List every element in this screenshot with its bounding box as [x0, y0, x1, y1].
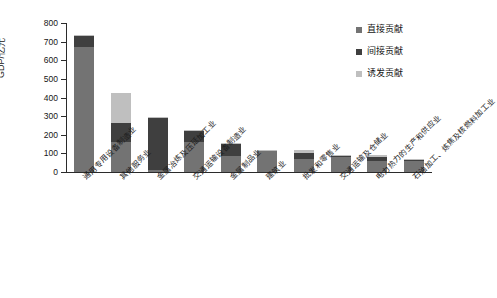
legend-swatch-icon	[356, 27, 362, 33]
legend-item[interactable]: 直接贡献	[356, 24, 452, 35]
legend-item[interactable]: 间接贡献	[356, 46, 452, 57]
legend-swatch-icon	[356, 71, 362, 77]
x-axis-label: 金属冶炼及压延加工业	[156, 119, 218, 181]
chart-legend: 直接贡献间接贡献诱发贡献	[356, 24, 452, 90]
x-axis-label: 建筑业	[265, 159, 288, 182]
x-axis-label: 石油加工、炼焦及核燃料加工业	[412, 97, 497, 182]
legend-label: 间接贡献	[367, 47, 403, 56]
legend-label: 诱发贡献	[367, 69, 403, 78]
x-axis-label: 电力热力的生产和供应业	[375, 114, 443, 182]
x-axis-label: 金属制品业	[229, 148, 263, 182]
legend-swatch-icon	[356, 49, 362, 55]
x-axis-label: 其他服务业	[119, 148, 153, 182]
legend-item[interactable]: 诱发贡献	[356, 68, 452, 79]
legend-label: 直接贡献	[367, 25, 403, 34]
x-axis-label: 批发和零售业	[302, 142, 342, 182]
